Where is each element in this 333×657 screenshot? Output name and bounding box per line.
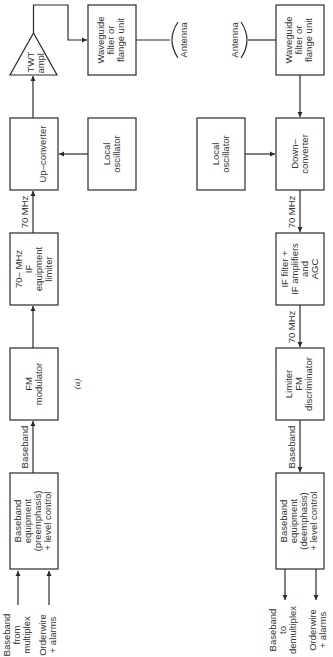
tx-input-baseband-label: Basebandfrommultiplex — [1, 614, 32, 657]
rx-if-link-b-label: 70 MHz — [286, 310, 297, 343]
tx-twt-waveguide-link — [34, 5, 88, 40]
svg-text:Orderwire+ alarms: Orderwire+ alarms — [307, 609, 328, 651]
rx-output-baseband-label: Basebandtodemultiplex — [267, 606, 298, 654]
rx-if-link-a-label: 70 MHz — [286, 195, 297, 228]
svg-text:TWTampl.: TWTampl. — [25, 50, 46, 73]
svg-text:Basebandtodemultiplex: Basebandtodemultiplex — [267, 606, 298, 654]
svg-text:Down–converter: Down–converter — [289, 134, 310, 174]
figure-caption: (a) — [72, 379, 82, 390]
tx-if-link-label: 70 MHz — [19, 195, 30, 228]
rx-output-orderwire-label: Orderwire+ alarms — [307, 609, 328, 651]
tx-antenna-label: Antenna — [178, 22, 189, 58]
rx-baseband-link-label: Baseband — [286, 426, 297, 469]
svg-text:Up–converter: Up–converter — [37, 125, 48, 182]
up-converter-block — [10, 118, 58, 190]
tx-input-orderwire-label: Orderwire+ alarms — [37, 614, 58, 656]
svg-text:Basebandfrommultiplex: Basebandfrommultiplex — [1, 614, 32, 657]
microwave-radio-block-diagram: Basebandfrommultiplex Orderwire+ alarms … — [0, 0, 333, 657]
svg-text:Basebandequipment(preemphasis): Basebandequipment(preemphasis)+ level co… — [12, 491, 53, 552]
rx-antenna-icon — [241, 22, 247, 58]
rx-antenna-label: Antenna — [229, 22, 240, 58]
svg-text:Orderwire+ alarms: Orderwire+ alarms — [37, 614, 58, 656]
svg-text:Basebandequipment(deemphasis)+: Basebandequipment(deemphasis)+ level con… — [278, 492, 319, 551]
tx-baseband-link-label: Baseband — [19, 426, 30, 469]
